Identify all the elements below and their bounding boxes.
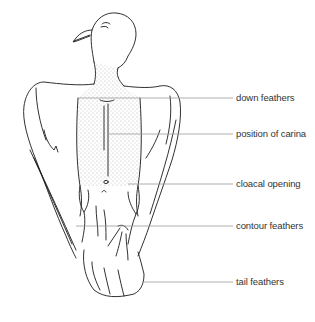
- label-cloacal-opening: cloacal opening: [236, 179, 301, 189]
- label-tail-feathers: tail feathers: [236, 277, 284, 287]
- diagram: down feathers position of carina cloacal…: [0, 0, 315, 322]
- label-down-feathers: down feathers: [236, 93, 294, 103]
- label-position-of-carina: position of carina: [236, 129, 306, 139]
- bird-illustration: [0, 0, 315, 322]
- label-contour-feathers: contour feathers: [236, 221, 303, 231]
